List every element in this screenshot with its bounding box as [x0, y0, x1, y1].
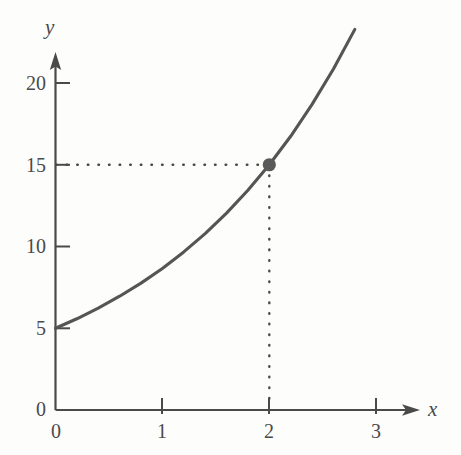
y-tick-label-10: 10: [0, 236, 46, 256]
y-tick-label-0: 0: [0, 399, 46, 419]
x-tick-label-3: 3: [356, 421, 396, 441]
y-tick-label-15: 15: [0, 155, 46, 175]
x-tick-label-0: 0: [36, 421, 76, 441]
plot-canvas: [0, 0, 461, 455]
x-tick-label-2: 2: [249, 421, 289, 441]
y-axis-label: y: [45, 17, 54, 38]
exponential-graph-figure: 20 15 10 5 0 0 1 2 3 y x: [0, 0, 461, 455]
y-tick-label-20: 20: [0, 73, 46, 93]
x-axis: [56, 404, 421, 415]
y-axis-ticks: [56, 83, 71, 328]
exponential-curve: [56, 29, 355, 328]
x-axis-ticks: [162, 398, 376, 414]
marked-point-dot: [263, 158, 276, 171]
x-tick-label-1: 1: [142, 421, 182, 441]
y-tick-label-5: 5: [0, 318, 46, 338]
x-axis-label: x: [428, 399, 437, 420]
y-axis: [50, 52, 61, 410]
